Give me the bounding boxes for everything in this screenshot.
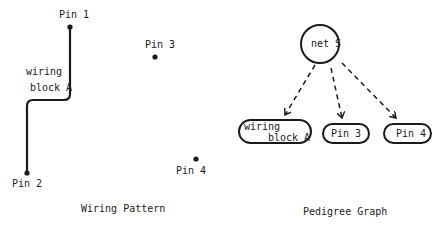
pin-3-dot (152, 54, 157, 59)
pedigree-graph-caption: Pedigree Graph (303, 206, 387, 217)
figure-canvas: Pin 1 Pin 2 Pin 3 Pin 4 wiring block A W… (0, 0, 444, 225)
wire-block-a (27, 27, 70, 173)
pin-4-node-label: Pin 4 (396, 128, 426, 139)
edge-to-pin-4 (342, 63, 396, 118)
pin-3-node-label: Pin 3 (331, 128, 361, 139)
wire-label-line1: wiring (26, 66, 62, 77)
pin-2-dot (24, 170, 29, 175)
pin-4-label: Pin 4 (176, 165, 206, 176)
pin-1-label: Pin 1 (59, 9, 89, 20)
wire-label-line2: block A (30, 82, 72, 93)
pin-4-dot (193, 156, 198, 161)
pin-3-label: Pin 3 (145, 39, 175, 50)
wiring-pattern: Pin 1 Pin 2 Pin 3 Pin 4 wiring block A W… (12, 9, 206, 214)
net-s-label: net S (311, 38, 341, 49)
edge-to-wiring-block-a (285, 65, 315, 115)
pedigree-graph: net S wiring block A Pin 3 Pin 4 Pedigre… (239, 25, 431, 217)
wiring-block-a-label-line2: block A (268, 132, 310, 143)
edge-to-pin-3 (331, 68, 342, 118)
pin-1-dot (67, 24, 72, 29)
pin-2-label: Pin 2 (12, 178, 42, 189)
wiring-block-a-label-line1: wiring (244, 121, 280, 132)
wiring-pattern-caption: Wiring Pattern (81, 203, 165, 214)
